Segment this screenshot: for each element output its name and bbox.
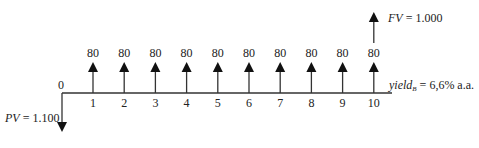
arrow-up-icon — [213, 62, 223, 72]
coupon-value: 80 — [274, 46, 286, 60]
coupon-arrow: 80 10 — [368, 46, 380, 110]
coupon-arrow: 80 8 — [305, 46, 317, 110]
period-label: 10 — [368, 96, 380, 110]
coupon-arrow: 80 7 — [274, 46, 286, 110]
arrow-up-icon — [150, 62, 160, 72]
coupon-value: 80 — [181, 46, 193, 60]
coupon-arrow: 80 2 — [118, 46, 130, 110]
arrow-up-icon — [244, 62, 254, 72]
fv-inflow-arrow — [369, 12, 379, 43]
coupon-arrow: 80 6 — [243, 46, 255, 110]
coupon-value: 80 — [368, 46, 380, 60]
coupon-value: 80 — [149, 46, 161, 60]
period-label: 9 — [340, 96, 346, 110]
arrow-up-icon — [275, 62, 285, 72]
cash-flow-diagram: 0 PV = 1.100 80 1 80 2 80 3 — [0, 0, 479, 148]
arrow-up-icon — [369, 12, 379, 22]
coupon-arrows: 80 1 80 2 80 3 80 4 80 5 — [87, 46, 380, 110]
coupon-value: 80 — [212, 46, 224, 60]
coupon-arrow: 80 1 — [87, 46, 99, 110]
arrow-up-icon — [88, 62, 98, 72]
arrow-up-icon — [119, 62, 129, 72]
arrow-up-icon — [338, 62, 348, 72]
pv-label: PV = 1.100 — [4, 111, 59, 125]
coupon-value: 80 — [87, 46, 99, 60]
coupon-value: 80 — [305, 46, 317, 60]
period-label: 3 — [152, 96, 158, 110]
period-label: 4 — [184, 96, 190, 110]
coupon-value: 80 — [118, 46, 130, 60]
period-label: 6 — [246, 96, 252, 110]
yield-label: yieldB = 6,6% a.a. — [388, 78, 474, 93]
period-label: 2 — [121, 96, 127, 110]
fv-label: FV = 1.000 — [387, 11, 442, 25]
period-label: 1 — [90, 96, 96, 110]
origin-label: 0 — [58, 78, 64, 92]
period-label: 8 — [308, 96, 314, 110]
period-label: 5 — [215, 96, 221, 110]
coupon-arrow: 80 9 — [337, 46, 349, 110]
coupon-value: 80 — [337, 46, 349, 60]
coupon-arrow: 80 4 — [181, 46, 193, 110]
coupon-arrow: 80 3 — [149, 46, 161, 110]
period-label: 7 — [277, 96, 283, 110]
coupon-value: 80 — [243, 46, 255, 60]
arrow-up-icon — [182, 62, 192, 72]
arrow-up-icon — [369, 62, 379, 72]
arrow-up-icon — [306, 62, 316, 72]
coupon-arrow: 80 5 — [212, 46, 224, 110]
